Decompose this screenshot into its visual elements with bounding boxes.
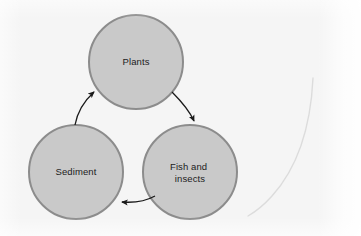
faint-curve-artifact	[248, 78, 313, 216]
node-sediment-label: Sediment	[56, 166, 97, 177]
node-plants-label-line-1: Plants	[122, 56, 149, 67]
node-sediment-label-line-1: Sediment	[56, 166, 97, 177]
node-fish-and-insects-label-line-2: insects	[175, 173, 205, 184]
arrow-plants-to-fish-and-insects	[172, 92, 194, 121]
node-fish-and-insects-label: Fish and insects	[170, 160, 210, 184]
arrow-sediment-to-plants	[75, 92, 94, 125]
node-plants-label: Plants	[122, 56, 149, 67]
node-fish-and-insects[interactable]: Fish and insects	[143, 125, 237, 219]
cycle-diagram-svg: Plants Sediment Fish and insects	[0, 0, 361, 236]
diagram-canvas: Plants Sediment Fish and insects	[0, 0, 361, 236]
node-sediment[interactable]: Sediment	[29, 125, 123, 219]
node-plants[interactable]: Plants	[89, 15, 183, 109]
node-fish-and-insects-label-line-1: Fish and	[170, 160, 207, 171]
